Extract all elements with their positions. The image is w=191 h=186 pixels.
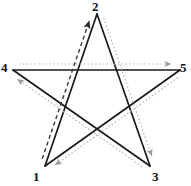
- edge-1-to-2: [45, 14, 97, 166]
- path-arrow-2-to-3: [104, 18, 152, 156]
- vertex-label-5: 5: [180, 61, 187, 74]
- vertex-label-3: 3: [152, 170, 159, 183]
- vertex-label-1: 1: [33, 170, 40, 183]
- solid-star-edges: [13, 14, 180, 166]
- edge-3-to-4: [13, 70, 150, 166]
- pentagram-figure: 2 4 5 1 3: [0, 0, 191, 186]
- path-arrow-5-to-1: [55, 78, 178, 165]
- pentagram-canvas: [0, 0, 191, 186]
- path-arrow-1-to-2: [42, 21, 89, 159]
- edge-2-to-3: [97, 14, 150, 166]
- vertex-label-4: 4: [1, 61, 8, 74]
- vertex-label-2: 2: [92, 0, 99, 13]
- edge-5-to-1: [45, 70, 180, 166]
- traversal-path-arrows: [18, 18, 179, 167]
